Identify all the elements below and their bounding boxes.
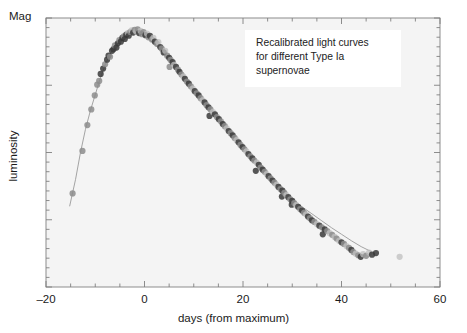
annotation-line-3: supernovae [256,64,392,78]
mag-axis-label: Mag [9,10,31,23]
x-tick-label: 20 [223,293,263,305]
x-tick-label: 0 [125,293,165,305]
y-axis-label: luminosity [7,116,19,196]
x-tick-label: 60 [420,293,460,305]
x-tick-label: –20 [26,293,66,305]
x-tick-label: 40 [322,293,362,305]
x-axis-label: days (from maximum) [0,312,467,324]
annotation-textbox: Recalibrated light curves for different … [245,30,401,87]
annotation-line-1: Recalibrated light curves [256,36,392,50]
annotation-line-2: for different Type Ia [256,50,392,64]
light-curve-figure: Mag luminosity days (from maximum) –2002… [0,0,467,333]
